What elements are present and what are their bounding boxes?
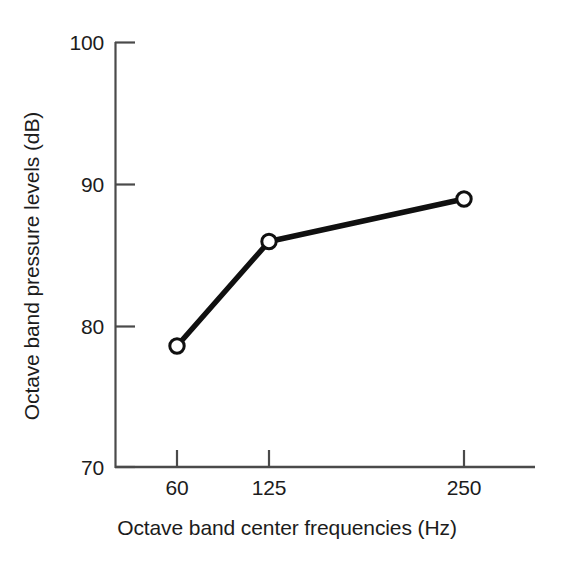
y-axis-title: Octave band pressure levels (dB) bbox=[20, 112, 43, 420]
x-tick-label-125: 125 bbox=[229, 477, 309, 498]
data-point-markers bbox=[170, 192, 471, 353]
x-axis-title: Octave band center frequencies (Hz) bbox=[0, 516, 574, 540]
y-axis-ticks bbox=[115, 43, 135, 468]
y-axis-title-container: Octave band pressure levels (dB) bbox=[20, 6, 44, 526]
data-series-line bbox=[177, 199, 464, 346]
y-tick-label-70: 70 bbox=[44, 457, 104, 478]
x-tick-label-60: 60 bbox=[137, 477, 217, 498]
x-tick-label-250: 250 bbox=[424, 477, 504, 498]
y-tick-label-100: 100 bbox=[44, 32, 104, 53]
y-tick-label-90: 90 bbox=[44, 174, 104, 195]
chart-figure: 100 90 80 70 60 125 250 Octave band cent… bbox=[0, 0, 574, 561]
data-point-60hz bbox=[170, 339, 184, 353]
data-point-125hz bbox=[262, 234, 276, 248]
data-point-250hz bbox=[457, 192, 471, 206]
x-axis-ticks bbox=[177, 450, 464, 467]
y-tick-label-80: 80 bbox=[44, 316, 104, 337]
